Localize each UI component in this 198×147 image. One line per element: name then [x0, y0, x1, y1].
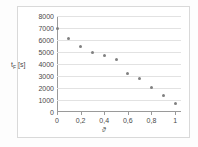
- data-point: [150, 86, 153, 89]
- y-gridline: [57, 64, 181, 65]
- x-axis-tick-label: 0,6: [123, 117, 133, 124]
- y-gridline: [57, 52, 181, 53]
- data-point: [103, 54, 106, 57]
- x-axis-title: ϑ: [102, 126, 106, 133]
- x-axis-tick: [57, 112, 58, 115]
- y-axis-tick-label: 0: [50, 109, 54, 116]
- y-axis-tick-label: 4000: [38, 61, 54, 68]
- y-gridline: [57, 88, 181, 89]
- plot-area: 80007000600050004000300020001000000,20,4…: [57, 16, 181, 112]
- y-axis-tick-label: 1000: [38, 97, 54, 104]
- y-axis-tick-label: 6000: [38, 37, 54, 44]
- y-axis-tick-label: 5000: [38, 49, 54, 56]
- x-axis-tick: [104, 112, 105, 115]
- x-axis-tick-label: 0: [55, 117, 59, 124]
- data-point: [79, 45, 82, 48]
- data-point: [91, 51, 94, 54]
- y-axis-tick-label: 3000: [38, 73, 54, 80]
- y-axis-tick-label: 8000: [38, 13, 54, 20]
- y-axis-tick-label: 7000: [38, 25, 54, 32]
- data-point: [174, 102, 177, 105]
- chart-figure: tF [s] ϑ 8000700060005000400030002000100…: [0, 0, 198, 147]
- x-axis-tick: [175, 112, 176, 115]
- y-gridline: [57, 16, 181, 17]
- y-gridline: [57, 76, 181, 77]
- x-axis-tick-label: 0,4: [99, 117, 109, 124]
- y-axis-tick-label: 2000: [38, 85, 54, 92]
- data-point: [162, 94, 165, 97]
- x-axis-tick: [128, 112, 129, 115]
- y-axis-title: tF [s]: [11, 61, 25, 70]
- x-axis-tick: [81, 112, 82, 115]
- x-axis-tick-label: 0,2: [76, 117, 86, 124]
- y-gridline: [57, 100, 181, 101]
- y-axis-title-unit: [s]: [16, 61, 25, 68]
- x-axis-tick-label: 1: [173, 117, 177, 124]
- y-gridline: [57, 40, 181, 41]
- data-point: [56, 27, 59, 30]
- data-point: [138, 77, 141, 80]
- data-point: [115, 58, 118, 61]
- x-axis-tick-label: 0,8: [147, 117, 157, 124]
- y-gridline: [57, 28, 181, 29]
- data-point: [126, 72, 129, 75]
- x-axis-line: [57, 111, 181, 112]
- x-axis-tick: [151, 112, 152, 115]
